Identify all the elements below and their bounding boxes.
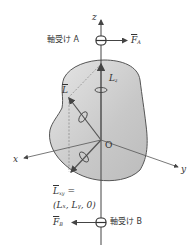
force-B-label: FB <box>53 218 63 227</box>
origin-label: O <box>105 141 112 150</box>
rigid-body <box>50 60 148 181</box>
bearing-b-label: 軸受け B <box>110 218 142 226</box>
bearing-a-label: 軸受け A <box>47 36 79 44</box>
Lxy-label: Lxy = <box>53 187 75 196</box>
Lz-label: Lz <box>109 74 118 83</box>
x-axis-label: x <box>13 155 18 164</box>
rigid-body-diagram <box>0 0 193 247</box>
y-axis-label: y <box>181 165 186 174</box>
force-A-label: FA <box>131 36 141 45</box>
bearing-b <box>96 218 106 227</box>
L-label: L <box>62 86 68 95</box>
bearing-a <box>96 36 106 45</box>
z-axis-label: z <box>92 13 97 22</box>
Lxy-components: (Lₓ, Lᵧ, 0) <box>53 201 96 210</box>
